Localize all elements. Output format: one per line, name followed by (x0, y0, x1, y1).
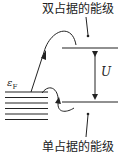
fermi-subscript: F (12, 83, 17, 91)
top-label-pointer (86, 17, 88, 35)
double-occupied-label: 双占据的能级 (42, 3, 114, 15)
excitation-arrow-up (31, 31, 76, 92)
coulomb-u-label: U (101, 66, 111, 78)
fermi-sea-levels (5, 92, 48, 120)
single-occupied-label: 单占据的能级 (42, 141, 114, 152)
hubbard-level-diagram: 双占据的能级 εF U 单占据的能级 (0, 0, 127, 152)
bottom-label-pointer (86, 115, 88, 137)
fermi-level-label: εF (7, 78, 17, 91)
